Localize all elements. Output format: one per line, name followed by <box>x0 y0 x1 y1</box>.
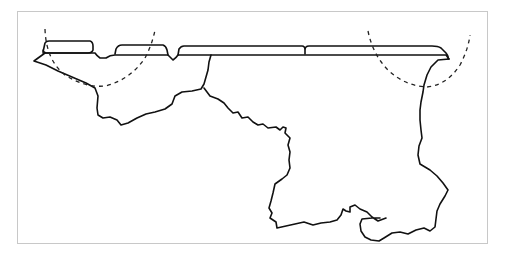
dashed-arc-right <box>368 31 470 87</box>
outline-map <box>0 0 508 255</box>
top-band <box>43 41 449 60</box>
region-outline <box>34 53 449 241</box>
